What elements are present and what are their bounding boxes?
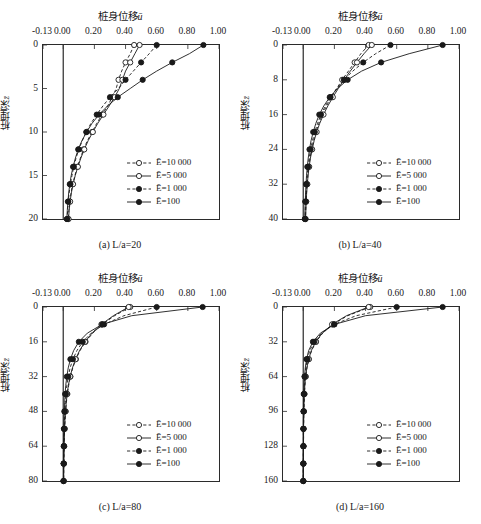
legend-item-label: Ē=10 000 — [396, 420, 431, 429]
series-marker — [354, 60, 359, 65]
series-marker — [140, 77, 145, 82]
y-tick-label: 80 — [29, 475, 39, 485]
legend-item-label: Ē=1 000 — [156, 446, 187, 455]
legend-item: Ē=100 — [366, 457, 431, 470]
series-marker — [64, 374, 69, 379]
series-marker — [76, 339, 81, 344]
legend-item: Ē=100 — [126, 457, 191, 470]
series-marker — [369, 42, 374, 47]
series-marker — [388, 42, 393, 47]
y-tick-label: 24 — [269, 143, 279, 153]
series-marker — [301, 444, 306, 449]
legend-item-label: Ē=100 — [396, 459, 420, 468]
series-marker — [303, 199, 308, 204]
x-axis-title-symbol: ū — [378, 273, 383, 284]
series-marker — [301, 391, 306, 396]
series-marker — [440, 304, 445, 309]
y-tick-label: 20 — [29, 213, 39, 223]
subplot-caption: (d) L/a=160 — [240, 501, 480, 512]
legend-item-label: Ē=100 — [396, 197, 420, 206]
legend-item: Ē=5 000 — [366, 431, 431, 444]
legend-item: Ē=5 000 — [126, 431, 191, 444]
x-tick-label: 0.60 — [147, 26, 164, 36]
x-tick-label: 0.20 — [325, 26, 342, 36]
x-tick-label: 0.60 — [387, 26, 404, 36]
subplot-c: 桩身位移ū 桩埋深z̄ -0.130.000.200.400.600.801.0… — [0, 262, 240, 524]
x-tick-label: 0.00 — [294, 288, 311, 298]
series-marker — [301, 409, 306, 414]
y-tick-label: 40 — [269, 213, 279, 223]
subplot-caption: (a) L/a=20 — [0, 239, 240, 250]
x-axis-title-text: 桩身位移 — [98, 273, 138, 284]
y-tick-label: 32 — [269, 336, 279, 346]
series-marker — [100, 322, 105, 327]
legend-marker-icon — [126, 432, 152, 444]
x-tick-label: 1.00 — [450, 288, 467, 298]
series-marker — [90, 129, 95, 134]
series-marker — [301, 426, 306, 431]
series-marker — [201, 42, 206, 47]
y-tick-label: 32 — [29, 371, 39, 381]
x-tick-label: 0.80 — [179, 26, 196, 36]
series-marker — [327, 95, 332, 100]
legend-marker-icon — [366, 432, 392, 444]
x-tick-label: 0.60 — [147, 288, 164, 298]
x-tick-label: 0.40 — [356, 288, 373, 298]
series-marker — [63, 391, 68, 396]
series-marker — [332, 322, 337, 327]
x-tick-label: 0.80 — [419, 26, 436, 36]
x-axis-title-text: 桩身位移 — [338, 273, 378, 284]
legend-item-label: Ē=5 000 — [156, 171, 187, 180]
legend-marker-icon — [126, 157, 152, 169]
series-line — [64, 307, 129, 481]
subplot-caption: (c) L/a=80 — [0, 501, 240, 512]
series-marker — [61, 444, 66, 449]
legend-item-label: Ē=5 000 — [396, 171, 427, 180]
legend-item: Ē=1 000 — [366, 182, 431, 195]
legend-item: Ē=10 000 — [366, 156, 431, 169]
y-tick-label: 0 — [273, 39, 278, 49]
legend-marker-icon — [126, 458, 152, 470]
subplot-caption: (b) L/a=40 — [240, 239, 480, 250]
series-marker — [62, 409, 67, 414]
series-marker — [303, 182, 308, 187]
y-tick-label: 0 — [33, 39, 38, 49]
series-marker — [170, 60, 175, 65]
x-tick-label: 0.00 — [54, 288, 71, 298]
series-marker — [61, 461, 66, 466]
series-marker — [67, 182, 72, 187]
x-tick-label: 0.40 — [116, 26, 133, 36]
y-tick-label: 5 — [33, 83, 38, 93]
legend: Ē=10 000Ē=5 000Ē=1 000Ē=100 — [366, 156, 431, 208]
series-marker — [366, 304, 371, 309]
legend-item: Ē=10 000 — [366, 418, 431, 431]
y-tick-label: 96 — [269, 405, 279, 415]
series-marker — [200, 304, 205, 309]
series-marker — [361, 60, 366, 65]
series-marker — [310, 339, 315, 344]
legend-item: Ē=5 000 — [366, 169, 431, 182]
y-tick-label: 128 — [264, 440, 278, 450]
series-marker — [137, 42, 142, 47]
y-tick-label: 64 — [269, 371, 279, 381]
series-marker — [82, 147, 87, 152]
x-axis-title-text: 桩身位移 — [98, 11, 138, 22]
series-marker — [126, 304, 131, 309]
x-tick-label: 0.20 — [85, 288, 102, 298]
series-marker — [301, 478, 306, 483]
series-marker — [132, 42, 137, 47]
series-marker — [345, 77, 350, 82]
legend-item-label: Ē=100 — [156, 459, 180, 468]
y-tick-label: 15 — [29, 170, 39, 180]
subplot-d: 桩身位移ū 桩埋深z̄ -0.130.000.200.400.600.801.0… — [240, 262, 480, 524]
x-tick-label: 0.00 — [54, 26, 71, 36]
series-marker — [394, 304, 399, 309]
legend-marker-icon — [366, 445, 392, 457]
y-tick-label: 16 — [269, 109, 279, 119]
legend: Ē=10 000Ē=5 000Ē=1 000Ē=100 — [126, 156, 191, 208]
x-tick-label: 1.00 — [450, 26, 467, 36]
series-marker — [96, 112, 101, 117]
x-tick-label: 0.40 — [356, 26, 373, 36]
x-tick-label: 0.40 — [116, 288, 133, 298]
series-marker — [64, 216, 69, 221]
